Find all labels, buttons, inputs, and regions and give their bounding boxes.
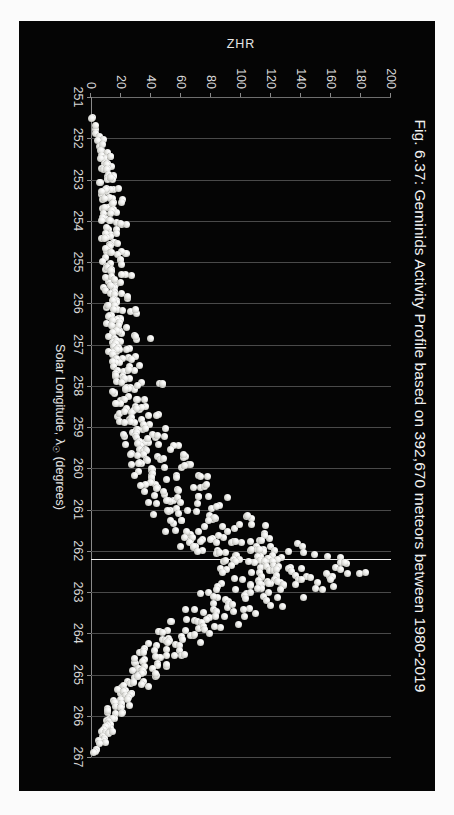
scatter-point [183,616,190,623]
y-axis-label: ZHR [91,35,391,53]
scatter-point [217,624,224,631]
scatter-point [232,538,239,545]
x-tick-label: 266 [71,705,85,726]
scatter-point [162,528,169,535]
scatter-point [330,583,337,590]
scatter-point [203,481,210,488]
scatter-point [122,385,129,392]
x-tick-mark [87,386,91,387]
scatter-point [240,606,247,613]
x-tick-label: 261 [71,499,85,520]
x-tick-mark [87,427,91,428]
y-tick-label: 120 [264,55,278,89]
scatter-point [163,497,170,504]
scatter-point [212,613,219,620]
scatter-point [204,473,211,480]
y-tick-mark [330,93,331,97]
scatter-point [134,452,141,459]
scatter-point [222,549,229,556]
y-axis-line [91,97,391,98]
y-tick-mark [240,93,241,97]
scatter-point [300,594,307,601]
x-tick-label: 265 [71,664,85,685]
scatter-point [239,576,246,583]
scatter-point [191,606,198,613]
scatter-point [140,649,147,656]
scatter-point [153,412,160,419]
scatter-point [247,582,254,589]
scatter-point [144,457,151,464]
scatter-point [160,488,167,495]
scatter-point [252,610,259,617]
x-tick-label: 251 [71,87,85,108]
scatter-point [319,586,326,593]
x-tick-mark [87,468,91,469]
scatter-point [171,652,178,659]
scatter-point [124,293,131,300]
y-tick-mark [390,93,391,97]
scatter-point [210,593,217,600]
x-tick-label: 256 [71,293,85,314]
scatter-point [344,570,351,577]
scatter-point [195,493,202,500]
scatter-point [177,543,184,550]
plot-area [91,97,391,757]
scatter-point [238,539,245,546]
scatter-point [98,217,105,224]
scatter-point [292,581,299,588]
scatter-point [197,590,204,597]
scatter-point [115,185,122,192]
x-tick-mark [87,510,91,511]
scatter-point [245,558,252,565]
scatter-point [231,575,238,582]
y-axis-label-text: ZHR [227,37,256,51]
x-gridline [91,262,391,263]
scatter-point [167,618,174,625]
x-axis-label-units: (degrees) [53,456,67,510]
x-gridline [91,180,391,181]
x-tick-mark [87,221,91,222]
scatter-point [118,271,125,278]
scatter-point [201,523,208,530]
scatter-point [206,630,213,637]
y-tick-label: 80 [204,55,218,89]
scatter-point [312,585,319,592]
scatter-point [311,551,318,558]
scatter-point [248,521,255,528]
scatter-point [337,566,344,573]
scatter-point [235,621,242,628]
x-tick-label: 259 [71,417,85,438]
scatter-point [123,346,130,353]
y-tick-mark [150,93,151,97]
y-tick-mark [210,93,211,97]
scatter-point [102,739,109,746]
x-tick-mark [87,262,91,263]
rotated-figure-wrapper: Fig. 6.37: Geminids Activity Profile bas… [19,21,435,791]
scatter-point [178,517,185,524]
x-tick-label: 260 [71,458,85,479]
scatter-point [193,508,200,515]
scatter-point [119,307,126,314]
x-gridline [91,138,391,139]
scatter-point [232,586,239,593]
scatter-point [160,455,167,462]
scatter-point [120,431,127,438]
x-tick-mark [87,757,91,758]
scatter-point [131,472,138,479]
x-axis-label-text: Solar Longitude, [53,344,67,435]
scatter-point [274,594,281,601]
scatter-point [135,460,142,467]
scatter-point [285,548,292,555]
scatter-point [194,500,201,507]
scatter-point [132,367,139,374]
y-tick-mark [180,93,181,97]
scatter-point [362,569,369,576]
x-tick-label: 257 [71,334,85,355]
scatter-point [229,601,236,608]
x-gridline [91,221,391,222]
scatter-point [133,396,140,403]
x-gridline [91,551,391,552]
scatter-point [184,507,191,514]
x-tick-label: 254 [71,210,85,231]
scatter-point [175,510,182,517]
